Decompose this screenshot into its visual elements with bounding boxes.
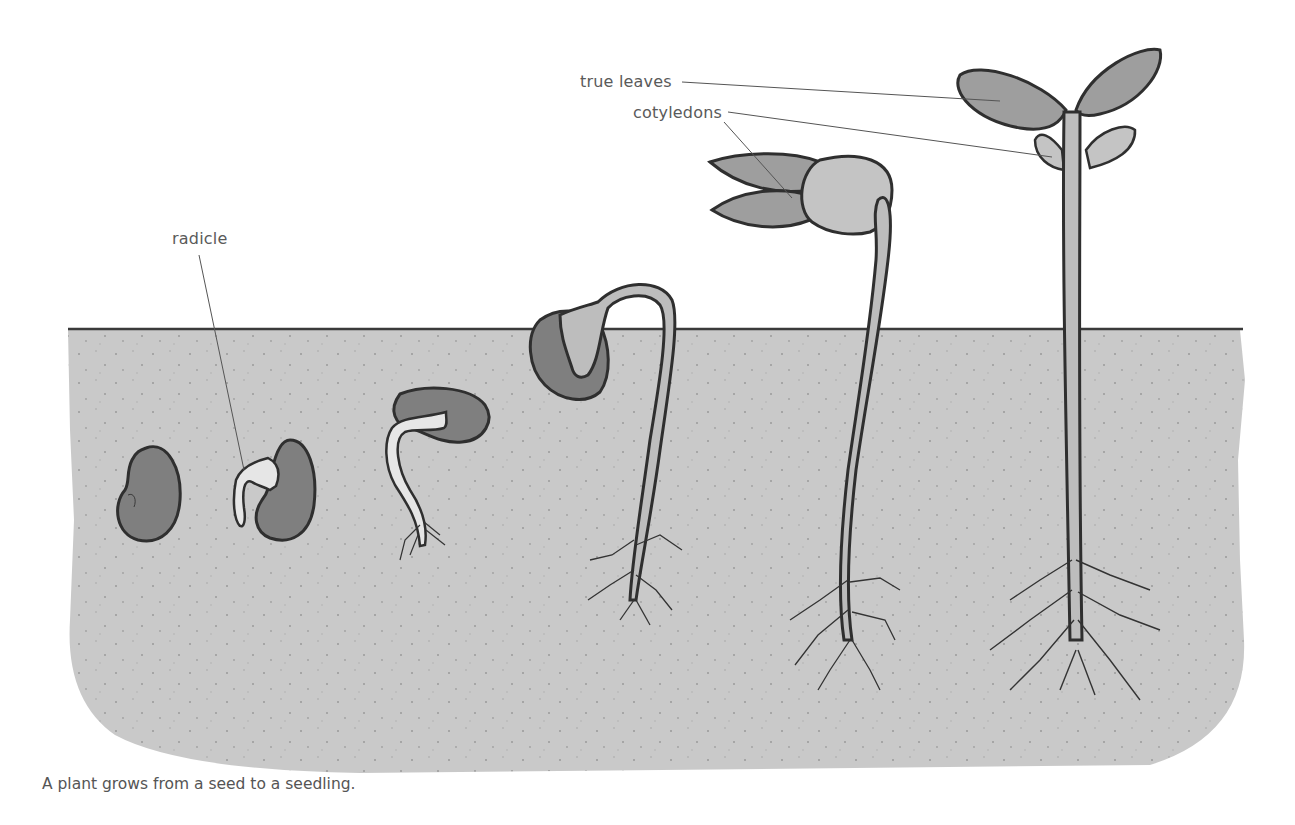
- label-radicle: radicle: [172, 229, 227, 248]
- label-cotyledons: cotyledons: [633, 103, 722, 122]
- germination-illustration: [0, 0, 1295, 825]
- label-true-leaves: true leaves: [580, 72, 672, 91]
- caption: A plant grows from a seed to a seedling.: [42, 775, 355, 793]
- true-leaves-leader: [682, 82, 1000, 101]
